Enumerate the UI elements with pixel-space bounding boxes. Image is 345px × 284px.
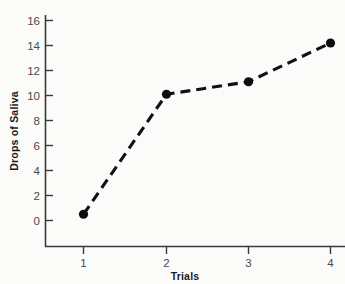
data-point-marker [79, 210, 88, 219]
y-tick-label-2: 2 [34, 190, 40, 202]
y-tick-label-0: 0 [34, 215, 40, 227]
data-point-marker [244, 77, 253, 86]
y-tick-label-4: 4 [34, 165, 41, 177]
chart-background [0, 0, 345, 284]
chart-container: 16 14 12 10 8 6 4 2 0 1 2 3 4 T [0, 0, 345, 284]
x-tick-label-3: 3 [245, 257, 251, 269]
y-tick-label-6: 6 [34, 140, 40, 152]
x-tick-label-4: 4 [327, 257, 334, 269]
y-tick-label-10: 10 [27, 90, 40, 102]
line-chart: 16 14 12 10 8 6 4 2 0 1 2 3 4 T [0, 0, 345, 284]
y-tick-label-14: 14 [27, 40, 40, 52]
data-point-marker [162, 90, 171, 99]
x-tick-label-1: 1 [80, 257, 86, 269]
x-tick-label-2: 2 [163, 257, 169, 269]
data-point-marker [326, 38, 335, 47]
x-axis-title: Trials [171, 270, 200, 282]
y-axis-title: Drops of Saliva [8, 91, 20, 170]
y-tick-label-16: 16 [27, 15, 40, 27]
y-tick-label-12: 12 [27, 65, 40, 77]
y-tick-label-8: 8 [34, 115, 40, 127]
